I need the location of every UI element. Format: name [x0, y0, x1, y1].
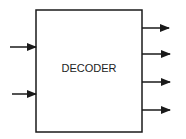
decoder-diagram: DECODER: [0, 0, 186, 139]
decoder-label: DECODER: [61, 62, 116, 74]
